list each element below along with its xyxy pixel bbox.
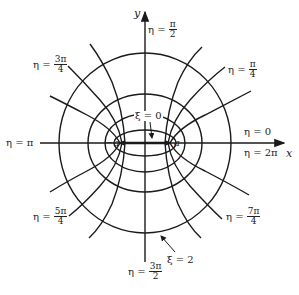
y-axis-label: y [134,8,140,19]
x-axis-label: x [286,148,292,159]
eta-zero-label: η = 0 [244,127,271,137]
eta-3pi-over-4-label: η = 3π4 [33,55,67,74]
hyperbola-eta-pi4-lower [168,143,222,219]
eta-3pi-over-2-label: η = 3π2 [128,262,162,281]
hyperbola-eta-7pi8-upper [50,96,120,143]
eta-two-pi-label: η = 2π [244,148,278,158]
eta-pi-label: η = π [6,138,33,148]
eta-pi-over-4-label: η = π4 [228,60,257,79]
hyperbola-eta-3pi4-upper [68,66,122,143]
eta-5pi-over-4-label: η = 5π4 [33,207,67,226]
eta-pi-over-2-label: η = π2 [148,20,177,39]
xi-two-pointer [161,236,175,252]
focus-left-label: −a [105,138,119,148]
hyperbola-eta-pi4-upper [168,67,225,143]
hyperbola-eta-5pi4-lower [69,143,122,216]
hyperbola-eta-pi8-upper [170,91,251,143]
eta-7pi-over-4-label: η = 7π4 [226,207,260,226]
xi-zero-label: ξ = 0 [134,111,163,121]
focus-right-label: a [174,138,180,148]
hyperbola-eta-9pi8-lower [50,143,120,192]
hyperbola-eta-pi8-lower [170,143,249,195]
xi-two-label: ξ = 2 [167,255,194,265]
